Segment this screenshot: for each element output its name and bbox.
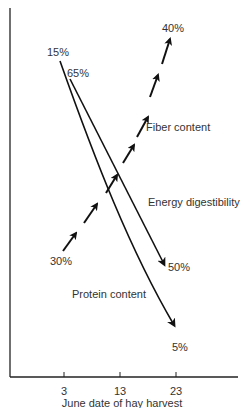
protein-start-label: 15%: [47, 46, 69, 58]
x-tick-label-3: 3: [61, 385, 67, 397]
x-axis-title: June date of hay harvest: [62, 397, 182, 408]
energy-name-label: Energy digestibility: [148, 196, 240, 208]
x-tick-label-23: 23: [170, 385, 182, 397]
x-tick-label-13: 13: [114, 385, 126, 397]
protein-name-label: Protein content: [72, 288, 146, 300]
energy-start-label: 65%: [67, 67, 89, 79]
fiber-name-label: Fiber content: [146, 121, 210, 133]
energy-line: [70, 79, 164, 264]
protein-end-label: 5%: [172, 341, 188, 353]
energy-end-label: 50%: [168, 261, 190, 273]
fiber-start-label: 30%: [50, 255, 72, 267]
protein-curve: [60, 61, 174, 325]
fiber-end-label: 40%: [162, 22, 184, 34]
chart: 3 13 23 June date of hay harvest 15% 5% …: [0, 0, 246, 408]
